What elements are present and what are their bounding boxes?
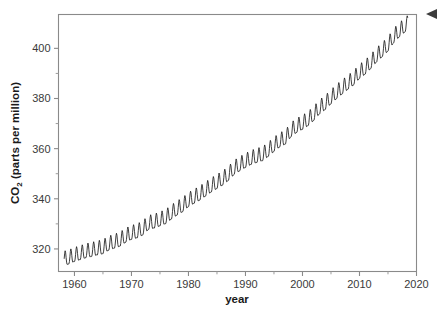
x-tick-label: 1970 — [119, 278, 143, 290]
plot-frame-rect — [59, 15, 417, 272]
y-axis-title-main: CO — [9, 187, 21, 204]
chart-canvas: 1960197019801990200020102020 32034036038… — [0, 0, 440, 316]
left-pointing-arrow-cursor — [426, 9, 437, 19]
x-tick-label: 2010 — [347, 278, 371, 290]
x-tick-label: 1980 — [176, 278, 200, 290]
x-axis-major-ticks — [74, 272, 416, 277]
x-axis-tick-labels: 1960197019801990200020102020 — [62, 278, 429, 290]
x-tick-label: 2000 — [290, 278, 314, 290]
y-tick-label: 360 — [32, 143, 50, 155]
x-tick-label: 1990 — [233, 278, 257, 290]
co2-keeling-curve-figure: 1960197019801990200020102020 32034036038… — [0, 0, 440, 316]
y-axis-tick-labels: 320340360380400 — [32, 42, 50, 255]
y-tick-label: 340 — [32, 193, 50, 205]
x-axis-title: year — [225, 293, 249, 305]
x-tick-label: 1960 — [62, 278, 86, 290]
co2-series-line — [64, 16, 407, 265]
y-tick-label: 320 — [32, 243, 50, 255]
y-axis-title: CO2 (parts per million) — [9, 82, 24, 204]
y-tick-label: 400 — [32, 42, 50, 54]
svg-text:CO2 (parts per million): CO2 (parts per million) — [9, 82, 24, 204]
y-tick-label: 380 — [32, 92, 50, 104]
plot-frame — [59, 15, 417, 272]
data-series-group — [64, 16, 407, 265]
y-axis-major-ticks — [54, 48, 59, 249]
y-axis-title-rest: (parts per million) — [9, 82, 21, 182]
x-tick-label: 2020 — [404, 278, 428, 290]
